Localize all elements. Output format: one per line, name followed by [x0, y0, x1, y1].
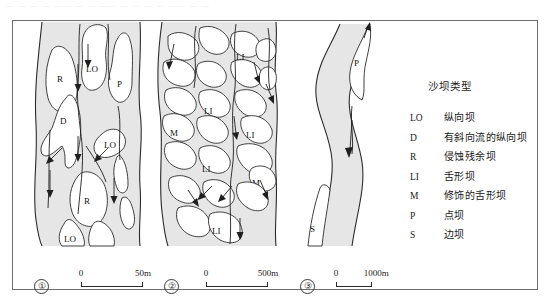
panels-container: R LO P D LO R LO	[12, 20, 538, 290]
legend-label-S: 边坝	[444, 226, 465, 241]
scalebar-bracket-3	[336, 282, 372, 287]
panel-number-2: ②	[164, 279, 179, 294]
legend-row-M: M 修饰的舌形坝	[410, 187, 550, 207]
bar-label-M-1: M	[170, 128, 178, 138]
panel-2-linguoid-bars: LI LI M LI LI M	[148, 20, 298, 248]
scalebar-panel-3: 0 1000m	[336, 268, 372, 281]
bar-label-LO-3: LO	[64, 234, 76, 244]
scalebar-zero-label-3: 0	[334, 268, 339, 278]
legend-row-R: R 侵蚀残余坝	[410, 148, 550, 168]
legend-row-LI: LI 舌形坝	[410, 168, 550, 188]
legend-label-LO: 纵向坝	[444, 109, 475, 124]
legend-code-S: S	[410, 230, 444, 240]
bar-label-LI-5: LI	[212, 226, 221, 236]
legend-row-P: P 点坝	[410, 207, 550, 227]
scalebar-max-label-2: 500m	[258, 268, 279, 278]
legend: 沙坝类型 LO 纵向坝 D 有斜向流的纵向坝 R 侵蚀残余坝 LI 舌形坝 M …	[410, 78, 550, 246]
scalebar-bracket-1	[81, 282, 143, 287]
panel-number-1: ①	[34, 279, 49, 294]
bar-label-LI-2: LI	[204, 106, 213, 116]
bar-label-D-1: D	[60, 116, 67, 126]
scale-row-panel-2: ② 0 500m	[164, 268, 304, 302]
bar-label-LI-4: LI	[202, 164, 211, 174]
scalebar-bracket-2	[206, 282, 268, 287]
bar-label-P-1: P	[117, 79, 122, 89]
scale-row-panel-3: ③ 0 1000m	[300, 268, 430, 302]
legend-row-LO: LO 纵向坝	[410, 109, 550, 129]
bar-label-R-1: R	[57, 74, 63, 84]
scale-row-panel-1: ① 0 50m	[34, 268, 164, 302]
legend-title: 沙坝类型	[428, 78, 550, 93]
scalebar-max-label-3: 1000m	[364, 268, 389, 278]
bar-label-LO-2: LO	[104, 140, 116, 150]
scan-artifact-text: — — — — —— — — —— — — — — —— — —	[6, 2, 546, 10]
legend-code-R: R	[410, 152, 444, 162]
bar-label-P-3: P	[354, 58, 359, 68]
scalebar-max-label-1: 50m	[135, 268, 151, 278]
bar-label-R-2: R	[84, 196, 90, 206]
panel-1-braided-river: R LO P D LO R LO	[22, 20, 162, 248]
legend-code-D: D	[410, 133, 444, 143]
legend-code-LO: LO	[410, 113, 444, 123]
legend-row-D: D 有斜向流的纵向坝	[410, 129, 550, 149]
legend-label-M: 修饰的舌形坝	[444, 187, 506, 202]
scalebar-panel-2: 0 500m	[206, 268, 268, 281]
panel-number-3: ③	[300, 279, 315, 294]
legend-code-M: M	[410, 191, 444, 201]
scalebar-panel-1: 0 50m	[81, 268, 143, 281]
legend-code-LI: LI	[410, 172, 444, 182]
panel-3-meandering-river: P S	[292, 20, 412, 248]
scalebar-zero-label-2: 0	[204, 268, 209, 278]
legend-row-S: S 边坝	[410, 226, 550, 246]
bar-label-S-3: S	[310, 224, 315, 234]
bar-label-LI-1: LI	[236, 52, 245, 62]
figure-root: — — — — —— — — —— — — — — —— — — R LO P	[0, 0, 551, 304]
legend-label-R: 侵蚀残余坝	[444, 148, 496, 163]
legend-code-P: P	[410, 211, 444, 221]
bar-label-LI-3: LI	[246, 130, 255, 140]
legend-label-D: 有斜向流的纵向坝	[444, 129, 527, 144]
legend-label-P: 点坝	[444, 207, 465, 222]
scalebar-zero-label-1: 0	[79, 268, 84, 278]
legend-label-LI: 舌形坝	[444, 168, 475, 183]
